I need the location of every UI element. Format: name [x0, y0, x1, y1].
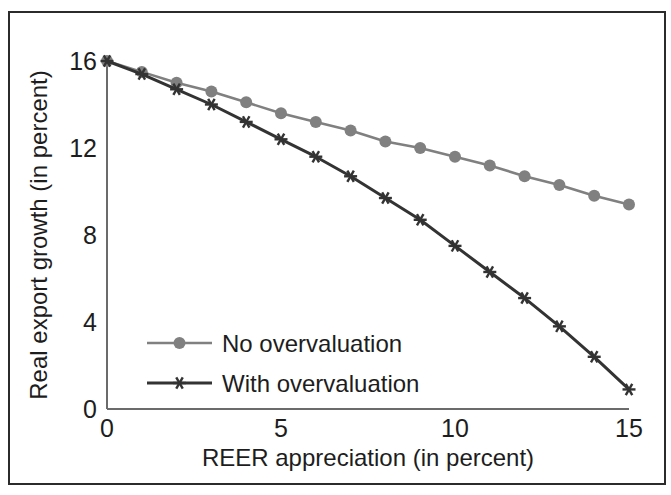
series-point	[379, 135, 391, 147]
legend-marker	[174, 337, 186, 349]
y-tick-label: 4	[83, 308, 97, 336]
y-axis-title: Real export growth (in percent)	[25, 70, 52, 399]
legend-item-1: No overvaluation	[147, 330, 402, 357]
y-tick-label: 12	[69, 134, 97, 162]
x-axis-title: REER appreciation (in percent)	[202, 444, 534, 471]
legend-label: No overvaluation	[222, 330, 402, 357]
series-point	[484, 159, 496, 171]
series-point	[588, 190, 600, 202]
chart-canvas: 0481216 051015 No overvaluationWith over…	[0, 0, 671, 495]
y-tick-label: 16	[69, 47, 97, 75]
series-point	[449, 151, 461, 163]
series-line	[107, 61, 629, 205]
chart-figure: 0481216 051015 No overvaluationWith over…	[0, 0, 671, 495]
y-axis-tick-labels: 0481216	[69, 47, 97, 423]
series-point	[414, 142, 426, 154]
marker-star	[173, 377, 186, 388]
x-tick-label: 15	[615, 414, 643, 442]
legend-label: With overvaluation	[222, 370, 419, 397]
y-tick-label: 8	[83, 221, 97, 249]
series-point	[310, 116, 322, 128]
series-point	[345, 125, 357, 137]
series-point	[519, 170, 531, 182]
y-tick-label: 0	[83, 395, 97, 423]
x-axis-tick-labels: 051015	[100, 414, 643, 442]
series-point	[623, 199, 635, 211]
chart-legend: No overvaluationWith overvaluation	[147, 330, 419, 397]
series-point	[553, 179, 565, 191]
legend-item-2: With overvaluation	[147, 370, 419, 397]
series-point	[205, 85, 217, 97]
x-tick-label: 10	[441, 414, 469, 442]
x-tick-label: 5	[274, 414, 288, 442]
series-point	[240, 96, 252, 108]
x-tick-label: 0	[100, 414, 114, 442]
series-point	[275, 107, 287, 119]
